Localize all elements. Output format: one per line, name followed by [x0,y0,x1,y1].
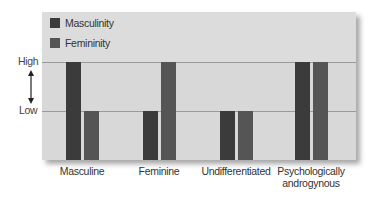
category-label-masculine-text: Masculine [60,165,105,177]
bar-androgynous-femininity [313,62,328,160]
legend-label-femininity: Femininity [65,37,110,49]
chart-panel: Masculinity Femininity [42,12,356,160]
legend-item-masculinity: Masculinity [50,16,114,30]
category-label-masculine: Masculine [60,165,105,177]
legend-swatch-masculinity [50,18,60,28]
category-label-feminine: Feminine [139,165,180,177]
bar-masculine-masculinity [66,62,81,160]
bar-masculine-femininity [84,111,99,160]
y-label-low: Low [19,104,37,116]
category-label-undifferentiated-text: Undifferentiated [201,165,270,177]
legend-swatch-femininity [50,38,60,48]
legend-label-masculinity: Masculinity [65,17,114,29]
bar-undifferentiated-masculinity [220,111,235,160]
bar-undifferentiated-femininity [238,111,253,160]
bar-androgynous-masculinity [295,62,310,160]
bar-feminine-femininity [161,62,176,160]
category-label-androgynous: Psychologically androgynous [277,165,344,189]
category-label-undifferentiated: Undifferentiated [201,165,270,177]
double-arrow-icon [25,70,37,104]
category-label-androgynous-line2: androgynous [277,177,344,189]
bar-feminine-masculinity [143,111,158,160]
legend-item-femininity: Femininity [50,36,114,50]
legend: Masculinity Femininity [50,16,114,56]
category-label-androgynous-line1: Psychologically [277,165,344,177]
category-label-feminine-text: Feminine [139,165,180,177]
y-label-high: High [18,55,38,67]
